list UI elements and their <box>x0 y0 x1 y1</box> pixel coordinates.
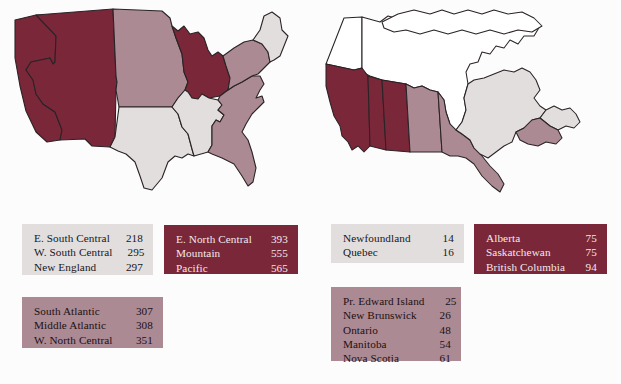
legend-value: 61 <box>431 351 451 365</box>
legend-row: Newfoundland 14 <box>343 231 454 245</box>
legend-value: 75 <box>577 245 597 259</box>
us-map-svg <box>12 6 312 206</box>
legend-us-mid: South Atlantic 307 Middle Atlantic 308 W… <box>22 297 163 348</box>
canada-map <box>318 6 618 206</box>
canada-region-territories <box>326 17 362 70</box>
legend-row: Alberta 75 <box>486 231 597 245</box>
legend-row: Pr. Edward Island 25 <box>343 294 451 308</box>
legend-row: W. North Central 351 <box>34 333 153 347</box>
legend-row: British Columbia 94 <box>486 260 597 274</box>
legend-row: Quebec 16 <box>343 245 454 259</box>
legend-row: Nova Scotia 61 <box>343 351 451 365</box>
legend-value: 555 <box>268 246 288 260</box>
legend-label: New Brunswick <box>343 308 429 322</box>
legend-value: 351 <box>133 333 153 347</box>
legend-canada-mid: Pr. Edward Island 25 New Brunswick 26 On… <box>331 287 461 361</box>
legend-canada-high: Alberta 75 Saskatchewan 75 British Colum… <box>474 224 607 274</box>
legend-label: Ontario <box>343 323 390 337</box>
legend-row: E. South Central 218 <box>34 231 143 245</box>
legend-us-low: E. South Central 218 W. South Central 29… <box>22 224 153 275</box>
legend-value: 565 <box>268 261 288 275</box>
legend-row: Middle Atlantic 308 <box>34 318 153 332</box>
legend-value: 297 <box>123 260 143 274</box>
legend-row: Mountain 555 <box>176 246 288 260</box>
legend-label: Saskatchewan <box>486 245 563 259</box>
figure-caption <box>8 374 448 384</box>
legend-label: Quebec <box>343 245 390 259</box>
legend-row: South Atlantic 307 <box>34 304 153 318</box>
legend-label: Mountain <box>176 246 232 260</box>
legend-value: 26 <box>431 308 451 322</box>
legend-value: 308 <box>133 318 153 332</box>
legend-value: 48 <box>431 323 451 337</box>
us-map <box>12 6 312 206</box>
legend-row: New England 297 <box>34 260 143 274</box>
legend-label: Pacific <box>176 261 220 275</box>
legend-label: Newfoundland <box>343 231 423 245</box>
legend-row: E. North Central 393 <box>176 232 288 246</box>
legend-label: Middle Atlantic <box>34 318 118 332</box>
canada-region-saskatchewan <box>382 80 410 152</box>
legend-label: E. North Central <box>176 232 264 246</box>
legend-value: 94 <box>577 260 597 274</box>
canada-region-british-columbia <box>326 64 370 152</box>
legend-canada-low: Newfoundland 14 Quebec 16 <box>331 224 464 263</box>
legend-label: Nova Scotia <box>343 351 411 365</box>
legend-value: 16 <box>434 245 454 259</box>
legend-row: Saskatchewan 75 <box>486 245 597 259</box>
legend-row: Manitoba 54 <box>343 337 451 351</box>
legend-label: British Columbia <box>486 260 577 274</box>
legend-label: W. South Central <box>34 245 125 259</box>
canada-map-svg <box>318 6 618 206</box>
legend-value: 218 <box>123 231 143 245</box>
figure-root: E. South Central 218 W. South Central 29… <box>0 0 621 384</box>
legend-value: 75 <box>577 231 597 245</box>
legend-row: W. South Central 295 <box>34 245 143 259</box>
legend-label: E. South Central <box>34 231 122 245</box>
legend-value: 54 <box>431 337 451 351</box>
legend-label: W. North Central <box>34 333 125 347</box>
legend-label: Manitoba <box>343 337 399 351</box>
canada-region-arctic-islands <box>382 10 542 34</box>
legend-row: Ontario 48 <box>343 323 451 337</box>
canada-region-manitoba <box>406 84 442 152</box>
legend-label: Pr. Edward Island <box>343 294 437 308</box>
legend-row: New Brunswick 26 <box>343 308 451 322</box>
legend-value: 307 <box>133 304 153 318</box>
legend-us-high: E. North Central 393 Mountain 555 Pacifi… <box>164 225 298 274</box>
legend-label: Alberta <box>486 231 532 245</box>
legend-value: 14 <box>434 231 454 245</box>
legend-value: 393 <box>268 232 288 246</box>
legend-label: New England <box>34 260 108 274</box>
legend-label: South Atlantic <box>34 304 112 318</box>
us-region-w-north-central <box>113 9 188 107</box>
legend-value: 25 <box>437 294 457 308</box>
legend-row: Pacific 565 <box>176 261 288 275</box>
legend-value: 295 <box>125 245 145 259</box>
